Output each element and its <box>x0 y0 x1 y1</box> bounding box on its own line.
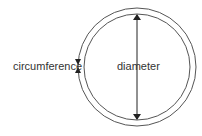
circle-diagram: circumference diameter <box>0 0 202 136</box>
diameter-label: diameter <box>117 60 160 72</box>
circumference-label: circumference <box>13 60 82 72</box>
